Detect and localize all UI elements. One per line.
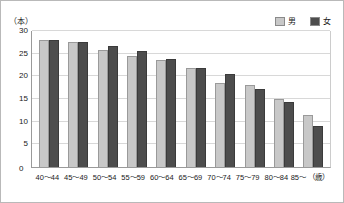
legend-swatch-icon (275, 17, 285, 26)
x-axis-tick-label: 55〜59 (119, 171, 148, 182)
bar-group (63, 31, 92, 167)
x-axis-tick-label: 70〜74 (205, 171, 234, 182)
bar-group (299, 31, 328, 167)
bar-female[interactable] (225, 74, 235, 167)
y-axis-tick-label: 5 (24, 139, 28, 148)
legend-label: 女 (323, 17, 331, 26)
x-axis-tick-label: 45〜49 (62, 171, 91, 182)
plot-area: 302520151050 (31, 31, 331, 168)
bar-group (152, 31, 181, 167)
bar-female[interactable] (196, 68, 206, 167)
bar-group (240, 31, 269, 167)
bar-group (210, 31, 239, 167)
legend-swatch-icon (310, 17, 320, 26)
x-axis-tick-label: 40〜44 (33, 171, 62, 182)
bar-female[interactable] (255, 89, 265, 167)
bar-groups (32, 31, 330, 167)
bar-male[interactable] (274, 99, 284, 167)
bar-female[interactable] (78, 42, 88, 167)
bar-female[interactable] (137, 51, 147, 168)
bar-male[interactable] (98, 50, 108, 167)
bar-group (34, 31, 63, 167)
bar-male[interactable] (303, 115, 313, 167)
bar-female[interactable] (284, 102, 294, 167)
bar-male[interactable] (68, 42, 78, 167)
x-axis-tick-label: 80〜84 (262, 171, 291, 182)
bar-male[interactable] (39, 40, 49, 167)
y-axis-tick-label: 10 (19, 116, 28, 125)
y-axis-tick-label: 15 (19, 94, 28, 103)
bar-male[interactable] (186, 68, 196, 167)
bar-female[interactable] (49, 40, 59, 167)
bar-female[interactable] (166, 59, 176, 167)
y-axis-tick-label: 30 (19, 26, 28, 35)
legend-item[interactable]: 女 (310, 17, 331, 26)
bar-male[interactable] (156, 60, 166, 167)
x-axis-tick-label: 85〜 （歳） (291, 171, 329, 182)
x-axis-labels: 40〜4445〜4950〜5455〜5960〜6465〜6970〜7475〜79… (31, 171, 331, 182)
bar-group (122, 31, 151, 167)
legend-item[interactable]: 男 (275, 17, 296, 26)
bar-female[interactable] (108, 46, 118, 167)
bar-male[interactable] (215, 83, 225, 167)
bar-group (93, 31, 122, 167)
y-axis-tick-label: 20 (19, 71, 28, 80)
x-axis-tick-label: 60〜64 (148, 171, 177, 182)
bar-female[interactable] (313, 126, 323, 167)
bar-group (181, 31, 210, 167)
bar-male[interactable] (245, 85, 255, 168)
legend-label: 男 (288, 17, 296, 26)
x-axis-tick-label: 50〜54 (90, 171, 119, 182)
chart-container: （本） 男女 302520151050 0 40〜4445〜4950〜5455〜… (0, 0, 344, 203)
bar-group (269, 31, 298, 167)
y-axis-zero-label: 0 (19, 164, 23, 173)
bar-male[interactable] (127, 56, 137, 167)
x-axis-tick-label: 75〜79 (233, 171, 262, 182)
chart-legend: 男女 (1, 15, 331, 27)
x-axis-tick-label: 65〜69 (176, 171, 205, 182)
y-axis-tick-label: 25 (19, 48, 28, 57)
